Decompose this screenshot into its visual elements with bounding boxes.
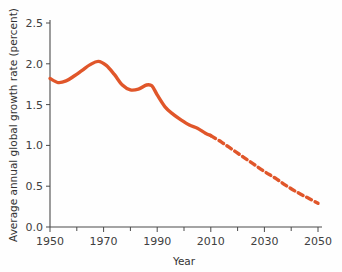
y-axis-tick-label: 1.5 — [26, 99, 44, 112]
y-axis-tick-label: 0.0 — [26, 221, 44, 234]
series-line-projected — [211, 136, 318, 204]
x-axis-tick-label: 2050 — [304, 235, 332, 248]
y-axis-title: Average annual global growth rate (perce… — [7, 8, 19, 242]
line-chart: 0.00.51.01.52.02.5 195019701990201020302… — [0, 0, 342, 272]
x-axis-tick-label: 1970 — [90, 235, 118, 248]
x-axis-title: Year — [172, 255, 196, 267]
y-axis-tick-label: 0.5 — [26, 180, 44, 193]
y-axis-tick-label: 2.5 — [26, 17, 44, 30]
y-axis-tick-label: 2.0 — [26, 58, 44, 71]
y-axis-tick-group: 0.00.51.01.52.02.5 — [26, 17, 51, 234]
x-axis-tick-label: 1950 — [36, 235, 64, 248]
series-line-observed — [50, 61, 211, 135]
x-axis-tick-label: 1990 — [143, 235, 171, 248]
chart-container: 0.00.51.01.52.02.5 195019701990201020302… — [0, 0, 342, 272]
x-axis-tick-label: 2010 — [197, 235, 225, 248]
x-axis-tick-group: 195019701990201020302050 — [36, 227, 332, 248]
x-axis-tick-label: 2030 — [250, 235, 278, 248]
y-axis-tick-label: 1.0 — [26, 139, 44, 152]
